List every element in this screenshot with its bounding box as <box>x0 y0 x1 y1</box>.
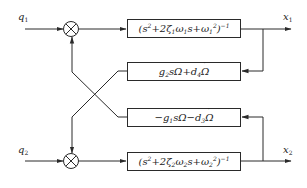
sum1-junction-icon <box>64 22 79 37</box>
plant1-block: (s2+2ζ1ω1s+ω12)−1 <box>127 19 241 38</box>
plant2-block: (s2+2ζ2ω2s+ω22)−1 <box>127 152 241 171</box>
x1-feedback-arrow <box>242 29 263 71</box>
q1-label: q1 <box>18 12 28 23</box>
x1-label: x1 <box>283 12 292 23</box>
coupling2-to-sum2-arrow <box>72 71 127 153</box>
q2-label: q2 <box>18 145 28 156</box>
x2-feedback-arrow <box>242 117 263 161</box>
block-diagram: q1 q2 x1 x2 (s2+2ζ1ω1s+ω12)−1 g2sΩ+d4Ω −… <box>0 0 307 188</box>
sum2-junction-icon <box>64 154 79 169</box>
coupling2-block: g2sΩ+d4Ω <box>127 62 241 81</box>
coupling1-to-sum1-arrow <box>72 37 127 117</box>
coupling1-block: −g1sΩ−d3Ω <box>127 108 241 127</box>
x2-label: x2 <box>283 145 292 156</box>
